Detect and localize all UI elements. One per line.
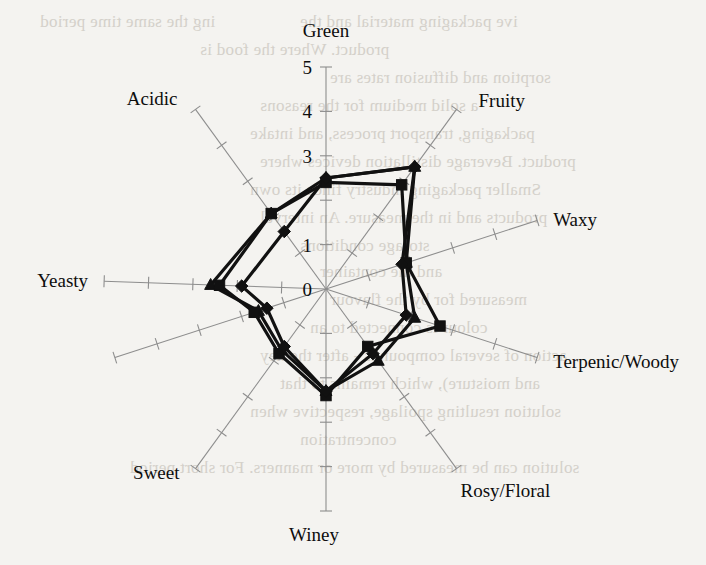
radar-chart: 01345 GreenFruityWaxyTerpenic/WoodyRosy/… (0, 0, 706, 565)
axis-tick (426, 142, 436, 149)
axis-label-winey: Winey (289, 524, 339, 545)
radial-tick-label: 3 (303, 146, 313, 167)
data-point-marker (435, 321, 445, 331)
axis-tick (217, 142, 227, 149)
axis-spoke-unnamed-7 (115, 289, 326, 358)
axis-tick (399, 393, 409, 400)
axis-tick (295, 321, 305, 328)
data-point-marker (396, 180, 406, 190)
axis-label-yeasty: Yeasty (37, 270, 88, 291)
radial-tick-label: 1 (303, 235, 313, 256)
radial-tick-label: 0 (303, 279, 313, 300)
axis-tick (217, 429, 227, 436)
series-polygon-1 (211, 167, 415, 391)
axis-label-acidic: Acidic (127, 88, 178, 109)
axis-tick (191, 465, 201, 472)
axis-tick (243, 178, 253, 185)
axis-tick (191, 106, 201, 113)
axis-label-terpenic-woody: Terpenic/Woody (553, 351, 679, 372)
axis-label-waxy: Waxy (553, 209, 597, 230)
axis-tick (452, 465, 462, 472)
radar-grid (104, 67, 539, 511)
axis-tick (373, 214, 383, 221)
axis-spoke-terpenic-woody (326, 289, 537, 358)
axis-tick (243, 393, 253, 400)
chart-canvas: ing the same time periodive packaging ma… (0, 0, 706, 565)
axis-label-sweet: Sweet (133, 462, 180, 483)
radial-tick-label: 5 (303, 57, 313, 78)
data-point-marker (249, 307, 259, 317)
axis-spoke-waxy (326, 220, 537, 289)
axis-spoke-fruity (326, 109, 456, 289)
axis-tick (426, 429, 436, 436)
axis-tick (347, 250, 357, 257)
axis-tick (347, 321, 357, 328)
axis-label-green: Green (303, 20, 350, 41)
axis-label-fruity: Fruity (478, 90, 525, 111)
radial-tick-label: 4 (303, 101, 313, 122)
data-point-marker (266, 208, 276, 218)
radar-series-polygons (211, 167, 440, 396)
data-point-marker (214, 280, 224, 290)
axis-label-rosy-floral: Rosy/Floral (460, 480, 550, 501)
axis-tick (452, 106, 462, 113)
